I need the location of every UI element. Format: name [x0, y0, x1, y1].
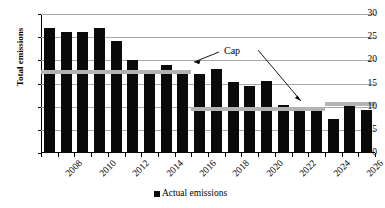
- y-axis-tick-label: 30: [340, 9, 377, 19]
- plot-area: [41, 14, 375, 153]
- x-axis-tick-mark: [58, 153, 59, 157]
- x-axis-tick-mark: [325, 153, 326, 157]
- x-axis-tick-label: 2024: [331, 158, 352, 179]
- bar: [228, 82, 239, 153]
- bar: [294, 109, 305, 153]
- x-axis-tick-label: 2016: [198, 158, 219, 179]
- x-axis-tick-mark: [74, 153, 75, 157]
- x-axis-tick-mark: [208, 153, 209, 157]
- y-axis-title: Total emissions: [15, 7, 25, 107]
- bar: [328, 119, 339, 153]
- x-axis-tick-mark: [91, 153, 92, 157]
- x-axis-tick-mark: [125, 153, 126, 157]
- bar: [244, 86, 255, 153]
- x-axis-tick-label: 2026: [365, 158, 385, 179]
- x-axis-tick-mark: [225, 153, 226, 157]
- legend-label-actual-emissions: Actual emissions: [162, 188, 227, 198]
- y-axis-tick-mark: [38, 60, 41, 61]
- x-axis-tick-mark: [141, 153, 142, 157]
- bar: [161, 65, 172, 153]
- x-axis-tick-label: 2014: [164, 158, 185, 179]
- bar: [44, 28, 55, 153]
- x-axis-tick-mark: [108, 153, 109, 157]
- x-axis-tick-mark: [342, 153, 343, 157]
- x-axis-tick-label: 2008: [64, 158, 85, 179]
- y-axis-tick-mark: [38, 14, 41, 15]
- x-axis-tick-mark: [175, 153, 176, 157]
- bar: [61, 32, 72, 153]
- x-axis-tick-mark: [41, 153, 42, 157]
- x-axis-tick-mark: [308, 153, 309, 157]
- x-axis-tick-mark: [158, 153, 159, 157]
- y-axis-tick-label: 15: [340, 79, 377, 89]
- bar: [144, 72, 155, 153]
- bar: [77, 32, 88, 153]
- x-axis-tick-label: 2018: [231, 158, 252, 179]
- x-axis-tick-label: 2012: [131, 158, 152, 179]
- x-axis-tick-mark: [275, 153, 276, 157]
- x-axis-tick-label: 2022: [298, 158, 319, 179]
- x-axis-tick-mark: [375, 153, 376, 157]
- bar: [194, 74, 205, 153]
- x-axis-tick-mark: [292, 153, 293, 157]
- y-axis-tick-mark: [38, 84, 41, 85]
- cap-annotation-label: Cap: [224, 45, 240, 56]
- bar: [311, 110, 322, 153]
- x-axis-tick-mark: [241, 153, 242, 157]
- cap-line-segment: [191, 107, 325, 111]
- x-axis-tick-label: 2020: [264, 158, 285, 179]
- bar: [94, 28, 105, 153]
- gridline: [41, 14, 375, 15]
- gridline: [41, 130, 375, 131]
- x-axis-tick-mark: [358, 153, 359, 157]
- bar: [111, 41, 122, 153]
- gridline: [41, 84, 375, 85]
- y-axis-tick-label: 10: [340, 102, 377, 112]
- y-axis-tick-label: 5: [340, 125, 377, 135]
- bar: [177, 72, 188, 153]
- x-axis-tick-mark: [191, 153, 192, 157]
- gridline: [41, 37, 375, 38]
- x-axis-tick-label: 2010: [97, 158, 118, 179]
- x-axis-tick-mark: [258, 153, 259, 157]
- y-axis-tick-mark: [38, 107, 41, 108]
- bar: [261, 81, 272, 153]
- y-axis-tick-label: 25: [340, 32, 377, 42]
- gridline: [41, 60, 375, 61]
- actual-emissions-swatch: [154, 191, 160, 197]
- cap-line-segment: [41, 70, 191, 74]
- y-axis-tick-mark: [38, 37, 41, 38]
- y-axis-tick-label: 20: [340, 55, 377, 65]
- chart-legend: Actual emissions: [0, 188, 381, 198]
- bar: [278, 105, 289, 153]
- y-axis-tick-mark: [38, 130, 41, 131]
